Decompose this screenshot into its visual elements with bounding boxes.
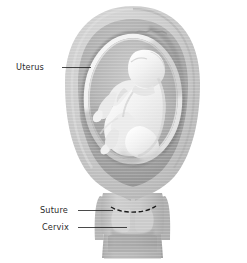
- anatomical-figure: Uterus Suture Cervix: [0, 0, 247, 263]
- label-uterus: Uterus: [16, 62, 44, 72]
- label-cervix: Cervix: [42, 222, 69, 232]
- uterus-cerclage-diagram: Uterus Suture Cervix: [0, 0, 247, 263]
- scan-texture: [0, 0, 247, 263]
- label-suture: Suture: [40, 205, 68, 215]
